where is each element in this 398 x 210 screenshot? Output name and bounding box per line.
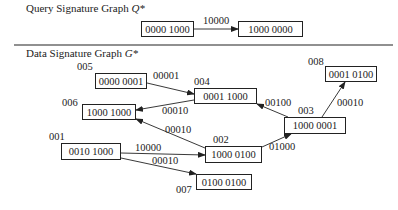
node-id-003: 003 bbox=[298, 105, 314, 116]
node-004: 0001 1000 bbox=[194, 88, 257, 104]
node-id-004: 004 bbox=[194, 76, 210, 87]
node-005: 0000 0001 bbox=[95, 73, 147, 89]
edge-label-003-008: 00010 bbox=[337, 97, 363, 108]
edge-label-005-004: 00001 bbox=[153, 70, 179, 81]
data-graph-title: Data Signature Graph G* bbox=[26, 47, 138, 59]
edge-label-002-003: 01000 bbox=[269, 141, 295, 152]
node-008: 0001 0100 bbox=[325, 66, 377, 82]
edge-label-003-004: 00100 bbox=[265, 97, 291, 108]
edge-005-004 bbox=[147, 83, 194, 94]
query-title-symbol: Q* bbox=[131, 2, 144, 14]
edge-label-002-006: 00010 bbox=[165, 124, 191, 135]
query-node-1: 1000 0000 bbox=[238, 21, 303, 37]
edge-label-004-006: 00010 bbox=[162, 105, 188, 116]
query-title-text: Query Signature Graph bbox=[26, 2, 131, 14]
node-id-005: 005 bbox=[77, 61, 93, 72]
node-id-002: 002 bbox=[213, 134, 229, 145]
node-006: 1000 1000 bbox=[82, 104, 136, 120]
node-id-008: 008 bbox=[308, 56, 324, 67]
node-007: 0100 0100 bbox=[196, 174, 252, 190]
node-003: 1000 0001 bbox=[284, 117, 346, 134]
data-title-text: Data Signature Graph bbox=[26, 47, 125, 59]
query-edge-label: 10000 bbox=[203, 15, 229, 26]
edge-label-001-007: 00010 bbox=[152, 155, 178, 166]
query-node-0: 0000 1000 bbox=[141, 21, 194, 37]
node-id-001: 001 bbox=[49, 131, 65, 142]
node-002: 1000 0100 bbox=[205, 146, 262, 163]
node-id-007: 007 bbox=[176, 184, 192, 195]
query-graph-title: Query Signature Graph Q* bbox=[26, 2, 145, 14]
data-title-symbol: G* bbox=[125, 47, 138, 59]
edge-label-001-002: 10000 bbox=[135, 142, 161, 153]
node-001: 0010 1000 bbox=[61, 143, 121, 160]
node-id-006: 006 bbox=[62, 97, 78, 108]
